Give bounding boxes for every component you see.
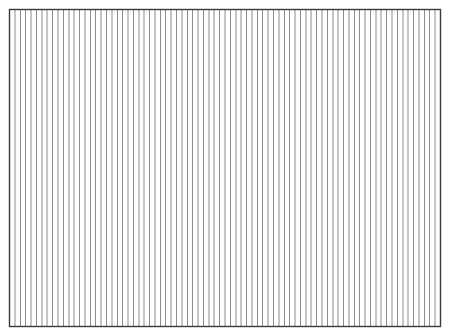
striped-frame (0, 0, 449, 336)
